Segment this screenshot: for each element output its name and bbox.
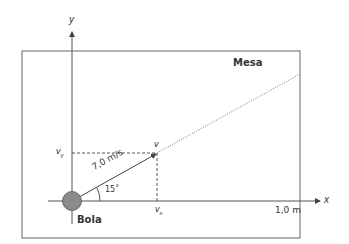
vx-label: vx [155,205,163,216]
angle-label: 15˚ [105,186,119,194]
table-label: Mesa [233,58,262,68]
y-axis-label: y [69,15,74,25]
x-axis-label: x [324,195,329,205]
trajectory-dotted-line [157,74,300,153]
distance-label: 1,0 m [275,206,301,215]
angle-arc [97,188,100,201]
ball-label: Bola [77,215,102,225]
velocity-label: v [154,140,159,149]
ball [63,192,82,211]
vy-label: vy [56,147,64,158]
